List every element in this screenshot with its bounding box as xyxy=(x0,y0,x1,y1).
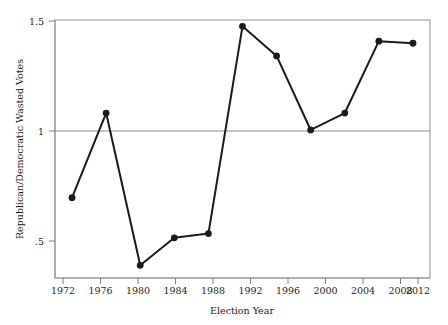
data-point xyxy=(171,234,178,241)
x-tick-label-1972: 1972 xyxy=(51,285,75,296)
x-tick-label-1996: 1996 xyxy=(276,285,300,296)
y-axis-ticks xyxy=(49,21,55,241)
x-tick-label-1976: 1976 xyxy=(88,285,112,296)
plot-background xyxy=(55,20,430,278)
x-tick-label-2012: 2012 xyxy=(406,285,430,296)
data-point xyxy=(341,110,348,117)
data-point xyxy=(307,127,314,134)
data-point xyxy=(239,23,246,30)
line-chart: 1.5 1 .5 1972 1976 1980 1984 1988 1992 1… xyxy=(0,0,448,325)
x-tick-label-1980: 1980 xyxy=(126,285,150,296)
y-tick-label-1-5: 1.5 xyxy=(29,16,44,27)
x-tick-label-1992: 1992 xyxy=(238,285,262,296)
data-point xyxy=(137,262,144,269)
x-tick-label-1988: 1988 xyxy=(201,285,225,296)
data-point xyxy=(410,40,417,47)
x-tick-label-1984: 1984 xyxy=(163,285,187,296)
y-tick-label-0-5: .5 xyxy=(35,236,44,247)
y-tick-label-1: 1 xyxy=(38,126,44,137)
chart-figure: 1.5 1 .5 1972 1976 1980 1984 1988 1992 1… xyxy=(0,0,448,325)
x-tick-label-2000: 2000 xyxy=(313,285,337,296)
data-point xyxy=(375,38,382,45)
data-point xyxy=(273,53,280,60)
data-point xyxy=(103,110,110,117)
y-axis-title: Republican/Democratic Wasted Votes xyxy=(14,59,25,239)
x-axis-title: Election Year xyxy=(210,305,274,316)
x-axis-ticks xyxy=(63,278,418,284)
data-point xyxy=(205,230,212,237)
data-point xyxy=(69,194,76,201)
x-tick-label-2004: 2004 xyxy=(351,285,375,296)
